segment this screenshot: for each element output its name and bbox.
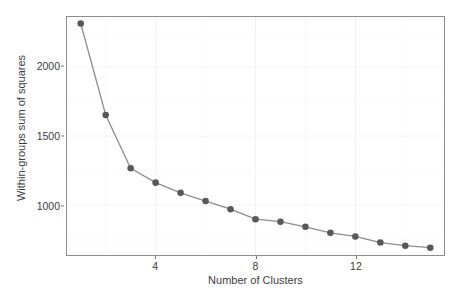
data-point (352, 233, 359, 240)
data-point (202, 198, 209, 205)
x-tick-mark (356, 256, 357, 259)
data-point (427, 244, 434, 251)
plot-panel (66, 16, 445, 256)
data-point (402, 242, 409, 249)
x-tick-mark (155, 256, 156, 259)
data-point (102, 112, 109, 119)
data-point (77, 20, 84, 27)
data-point (302, 223, 309, 230)
x-axis-title: Number of Clusters (66, 274, 445, 286)
data-point (377, 239, 384, 246)
x-tick-label: 8 (236, 260, 276, 272)
data-point (227, 206, 234, 213)
data-series-wss (67, 17, 444, 255)
data-point (327, 230, 334, 237)
x-tick-mark (256, 256, 257, 259)
data-point (177, 190, 184, 197)
x-tick-label: 4 (135, 260, 175, 272)
x-tick-label: 12 (336, 260, 376, 272)
data-point (152, 179, 159, 186)
elbow-plot-chart: Within-groups sum of squares 10001500200… (0, 0, 465, 299)
data-point (252, 216, 259, 223)
data-point (127, 165, 134, 172)
data-point (277, 218, 284, 225)
